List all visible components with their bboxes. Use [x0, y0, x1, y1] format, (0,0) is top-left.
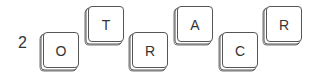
tile-letter: R	[133, 43, 167, 59]
letter-tile[interactable]: R	[266, 6, 302, 42]
letter-tile[interactable]: T	[88, 6, 124, 42]
letter-tile[interactable]: R	[132, 32, 168, 68]
tile-letter: O	[44, 43, 78, 59]
letter-tile[interactable]: C	[222, 32, 258, 68]
letter-tile[interactable]: O	[43, 32, 79, 68]
puzzle-number: 2	[18, 35, 27, 51]
tile-letter: A	[178, 17, 212, 33]
tile-letter: R	[267, 17, 301, 33]
tile-letter: T	[89, 17, 123, 33]
letter-tile[interactable]: A	[177, 6, 213, 42]
tile-letter: C	[223, 43, 257, 59]
